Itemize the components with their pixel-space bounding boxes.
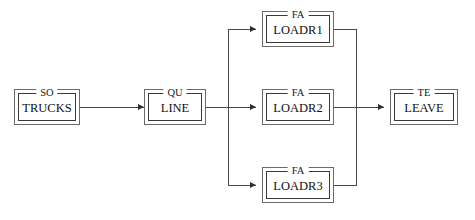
node-loadr1[interactable]: FA LOADR1 <box>262 11 334 47</box>
node-loadr1-type: FA <box>288 10 309 20</box>
node-trucks[interactable]: SO TRUCKS <box>14 89 80 125</box>
node-line[interactable]: QU LINE <box>144 89 206 125</box>
node-loadr2-label: LOADR2 <box>267 102 329 115</box>
node-loadr3-type: FA <box>288 166 309 176</box>
node-trucks-label: TRUCKS <box>19 102 75 115</box>
node-loadr3[interactable]: FA LOADR3 <box>262 167 334 203</box>
node-trucks-inner-frame: SO TRUCKS <box>18 93 76 121</box>
node-line-type: QU <box>163 88 186 98</box>
node-leave-inner-frame: TE LEAVE <box>394 93 454 121</box>
node-loadr3-inner-frame: FA LOADR3 <box>266 171 330 199</box>
node-trucks-type: SO <box>36 88 57 98</box>
node-loadr2[interactable]: FA LOADR2 <box>262 89 334 125</box>
node-loadr1-inner-frame: FA LOADR1 <box>266 15 330 43</box>
node-line-inner-frame: QU LINE <box>148 93 202 121</box>
diagram-canvas: SO TRUCKS QU LINE FA LOADR1 FA LOADR2 FA… <box>0 0 475 220</box>
node-loadr2-inner-frame: FA LOADR2 <box>266 93 330 121</box>
node-leave[interactable]: TE LEAVE <box>390 89 458 125</box>
node-loadr3-label: LOADR3 <box>267 180 329 193</box>
node-leave-label: LEAVE <box>395 102 453 115</box>
node-loadr2-type: FA <box>288 88 309 98</box>
node-leave-type: TE <box>414 88 435 98</box>
node-loadr1-label: LOADR1 <box>267 24 329 37</box>
node-line-label: LINE <box>149 102 201 115</box>
